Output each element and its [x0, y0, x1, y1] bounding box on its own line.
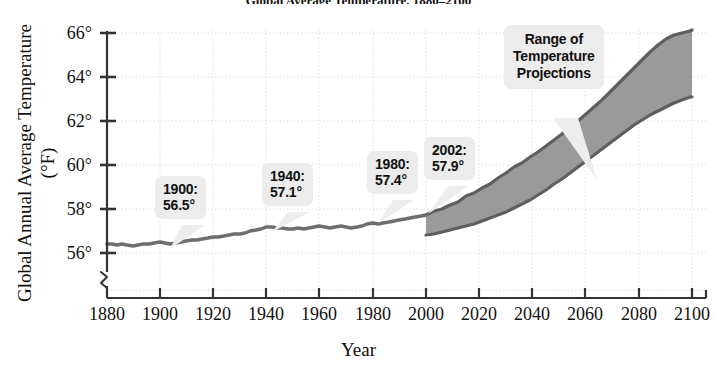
annotation-1980-year: 1980: [375, 156, 410, 172]
x-tick-label: 1960 [291, 305, 347, 323]
x-tick-label: 2020 [451, 305, 507, 323]
annotation-1900-year: 1900: [163, 181, 198, 197]
annotation-range-line1: Range of [513, 31, 595, 48]
callout-tail-1900 [170, 225, 205, 249]
x-tick-label: 2060 [557, 305, 613, 323]
x-tick-label: 1940 [238, 305, 294, 323]
x-tick-label: 1880 [79, 305, 135, 323]
x-tick-label: 2000 [398, 305, 454, 323]
x-tick-label: 2040 [504, 305, 560, 323]
x-tick-label: 2100 [664, 305, 717, 323]
annotation-2002: 2002: 57.9° [424, 137, 475, 180]
annotation-1980-value: 57.4° [375, 172, 410, 188]
annotation-1900-value: 56.5° [163, 197, 198, 213]
annotation-range-line3: Projections [513, 65, 595, 82]
annotation-1980: 1980: 57.4° [367, 151, 418, 194]
annotation-1940: 1940: 57.1° [262, 163, 313, 206]
x-tick-label: 1980 [345, 305, 401, 323]
observed-temperature-line [107, 215, 426, 246]
annotation-1900: 1900: 56.5° [155, 176, 206, 219]
x-axis-title: Year [0, 339, 717, 361]
x-tick-label: 1920 [185, 305, 241, 323]
annotation-1940-value: 57.1° [270, 184, 305, 200]
x-tick-label: 1900 [132, 305, 188, 323]
y-axis-title: Global Annual Average Temperature (°F) [13, 23, 59, 303]
y-axis [100, 31, 116, 298]
annotation-range-line2: Temperature [513, 48, 595, 65]
annotation-2002-year: 2002: [432, 142, 467, 158]
annotation-projection-range: Range of Temperature Projections [504, 25, 604, 89]
annotation-2002-value: 57.9° [432, 158, 467, 174]
axis-break-icon [101, 272, 107, 288]
x-tick-label: 2080 [611, 305, 667, 323]
temperature-chart-figure: Global Average Temperature, 1880–2100 [0, 0, 717, 371]
annotation-1940-year: 1940: [270, 168, 305, 184]
